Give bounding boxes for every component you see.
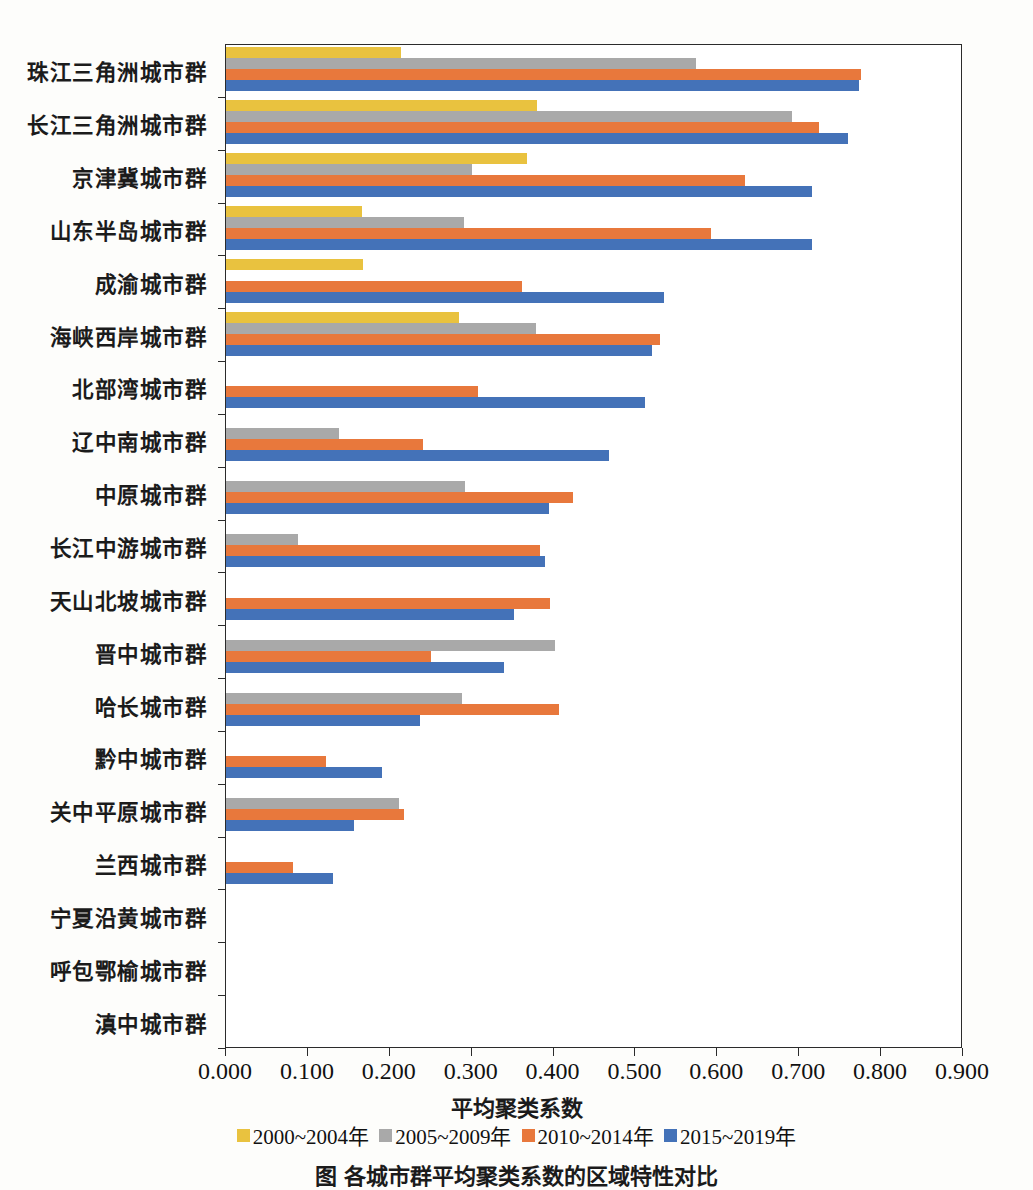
x-axis-tick xyxy=(634,1048,635,1056)
y-axis-tick xyxy=(218,97,226,98)
bar xyxy=(226,492,573,503)
category-label: 北部湾城市群 xyxy=(72,372,207,403)
bar xyxy=(226,651,431,662)
x-axis-title: 平均聚类系数 xyxy=(0,1090,1033,1122)
bars-layer xyxy=(226,45,961,1047)
bar xyxy=(226,598,550,609)
bar xyxy=(226,80,859,91)
bar xyxy=(226,175,745,186)
x-axis-tick-label: 0.200 xyxy=(362,1058,416,1085)
bar xyxy=(226,873,333,884)
y-axis-tick xyxy=(218,995,226,996)
x-axis-tick-label: 0.900 xyxy=(935,1058,989,1085)
category-label: 辽中南城市群 xyxy=(72,425,207,456)
x-axis-tick-label: 0.500 xyxy=(607,1058,661,1085)
bar xyxy=(226,69,861,80)
x-axis-tick-label: 0.600 xyxy=(689,1058,743,1085)
x-axis-tick xyxy=(471,1048,472,1056)
category-label: 兰西城市群 xyxy=(95,848,208,879)
legend-label: 2010~2014年 xyxy=(538,1120,654,1150)
category-label: 黔中城市群 xyxy=(95,742,208,773)
legend-item[interactable]: 2000~2004年 xyxy=(237,1120,369,1150)
x-axis-tick xyxy=(225,1048,226,1056)
legend-label: 2015~2019年 xyxy=(680,1120,796,1150)
legend-item[interactable]: 2015~2019年 xyxy=(664,1120,796,1150)
y-axis-tick xyxy=(218,889,226,890)
category-label: 天山北坡城市群 xyxy=(50,583,208,614)
bar xyxy=(226,640,555,651)
bar xyxy=(226,767,382,778)
bar xyxy=(226,153,527,164)
bar xyxy=(226,820,354,831)
y-axis-tick xyxy=(218,572,226,573)
bar xyxy=(226,312,459,323)
bar xyxy=(226,345,652,356)
x-axis-tick-label: 0.000 xyxy=(198,1058,252,1085)
category-label: 京津冀城市群 xyxy=(72,161,207,192)
category-label: 长江三角洲城市群 xyxy=(27,108,207,139)
x-axis-tick-label: 0.700 xyxy=(771,1058,825,1085)
bar xyxy=(226,704,559,715)
y-axis-tick xyxy=(218,520,226,521)
y-axis-tick xyxy=(218,625,226,626)
category-axis-labels: 珠江三角洲城市群长江三角洲城市群京津冀城市群山东半岛城市群成渝城市群海峡西岸城市… xyxy=(0,44,216,1048)
bar xyxy=(226,809,404,820)
category-label: 关中平原城市群 xyxy=(50,795,208,826)
category-label: 山东半岛城市群 xyxy=(50,213,208,244)
bar xyxy=(226,58,696,69)
category-label: 滇中城市群 xyxy=(95,1006,208,1037)
y-axis-tick xyxy=(218,731,226,732)
y-axis-tick xyxy=(218,414,226,415)
legend-label: 2005~2009年 xyxy=(395,1120,511,1150)
legend-swatch-icon xyxy=(237,1129,250,1142)
legend-swatch-icon xyxy=(522,1129,535,1142)
category-label: 哈长城市群 xyxy=(95,689,208,720)
y-axis-tick xyxy=(218,308,226,309)
bar xyxy=(226,428,339,439)
x-axis-tick xyxy=(307,1048,308,1056)
bar xyxy=(226,228,711,239)
bar xyxy=(226,186,812,197)
x-axis-tick xyxy=(389,1048,390,1056)
bar xyxy=(226,556,545,567)
legend-label: 2000~2004年 xyxy=(253,1120,369,1150)
category-label: 海峡西岸城市群 xyxy=(50,319,208,350)
bar xyxy=(226,439,423,450)
legend-item[interactable]: 2010~2014年 xyxy=(522,1120,654,1150)
category-label: 宁夏沿黄城市群 xyxy=(50,900,208,931)
y-axis-tick xyxy=(218,678,226,679)
bar xyxy=(226,693,462,704)
bar xyxy=(226,450,609,461)
bar xyxy=(226,862,293,873)
bar xyxy=(226,164,472,175)
x-axis-tick xyxy=(553,1048,554,1056)
bar xyxy=(226,798,399,809)
bar xyxy=(226,122,819,133)
bar xyxy=(226,217,464,228)
bar xyxy=(226,259,363,270)
legend-item[interactable]: 2005~2009年 xyxy=(379,1120,511,1150)
legend-swatch-icon xyxy=(379,1129,392,1142)
category-label: 成渝城市群 xyxy=(95,266,208,297)
bar xyxy=(226,281,522,292)
x-axis-tick xyxy=(716,1048,717,1056)
y-axis-tick xyxy=(218,361,226,362)
y-axis-tick xyxy=(218,150,226,151)
bar xyxy=(226,534,298,545)
category-label: 晋中城市群 xyxy=(95,636,208,667)
legend-swatch-icon xyxy=(664,1129,677,1142)
bar xyxy=(226,756,326,767)
category-label: 珠江三角洲城市群 xyxy=(27,55,207,86)
x-axis-tick xyxy=(798,1048,799,1056)
bar xyxy=(226,715,420,726)
bar xyxy=(226,609,514,620)
x-axis-tick xyxy=(962,1048,963,1056)
y-axis-tick xyxy=(218,467,226,468)
x-axis-tick xyxy=(880,1048,881,1056)
bar xyxy=(226,292,664,303)
bar xyxy=(226,323,536,334)
bar xyxy=(226,133,848,144)
bar xyxy=(226,545,540,556)
y-axis-tick xyxy=(218,203,226,204)
